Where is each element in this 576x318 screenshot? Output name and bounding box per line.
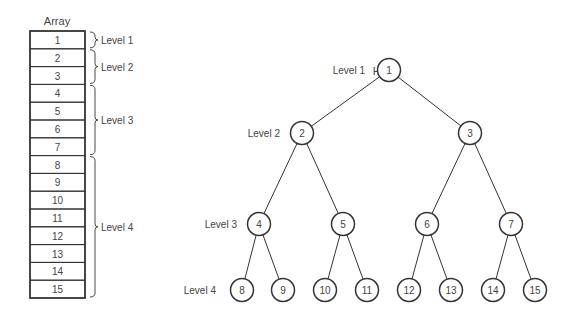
heap-node-value: 7 — [508, 219, 514, 230]
array-cell-value: 2 — [55, 53, 61, 64]
array-level-label: Level 4 — [101, 222, 134, 233]
array-cell-value: 3 — [55, 71, 61, 82]
array-cell-value: 11 — [52, 213, 63, 224]
heap-node-value: 12 — [403, 285, 415, 296]
brace-icon — [90, 157, 98, 297]
heap-node-value: 3 — [467, 128, 473, 139]
array-cell-value: 7 — [55, 142, 61, 153]
array-cell-value: 10 — [52, 195, 64, 206]
array-cell-value: 15 — [52, 284, 64, 295]
heap-level-labels: Level 1Level 2Level 3Level 4 — [184, 65, 366, 296]
brace-icon — [90, 50, 98, 84]
heap-edge — [432, 143, 465, 213]
heap-node-value: 6 — [424, 219, 430, 230]
brace-icon — [90, 32, 98, 48]
heap-level-label: Level 1 — [333, 65, 366, 76]
heap-edge — [515, 235, 531, 279]
heap-level-label: Level 2 — [248, 128, 281, 139]
array-cell-value: 9 — [55, 177, 61, 188]
heap-edge — [398, 77, 461, 126]
heap-edge — [347, 235, 363, 279]
heap-node-value: 10 — [319, 285, 331, 296]
heap-node-value: 11 — [362, 285, 373, 296]
array: 123456789101112131415 — [30, 31, 85, 298]
array-title: Array — [44, 15, 71, 27]
array-cell-value: 4 — [55, 88, 61, 99]
heap-node-value: 5 — [340, 219, 346, 230]
heap-edge — [412, 235, 424, 279]
array-cell-value: 6 — [55, 124, 61, 135]
heap-edge — [263, 235, 279, 279]
heap-edge — [307, 143, 339, 213]
heap-edge — [496, 235, 508, 279]
array-cell-value: 13 — [52, 249, 64, 260]
array-level-braces: Level 1Level 2Level 3Level 4 — [90, 32, 134, 297]
array-level-label: Level 3 — [101, 115, 134, 126]
heap-node-value: 4 — [256, 219, 262, 230]
array-cell-value: 8 — [55, 160, 61, 171]
array-level-label: Level 1 — [101, 35, 134, 46]
heap-edge — [328, 235, 340, 279]
heap-node-value: 9 — [280, 285, 286, 296]
heap-node-value: 1 — [386, 65, 392, 76]
heap-node-value: 14 — [487, 285, 499, 296]
array-heap-diagram: Array 123456789101112131415 Level 1Level… — [0, 0, 576, 318]
heap-edges — [245, 77, 531, 279]
heap-level-label: Level 3 — [205, 219, 238, 230]
heap-edge — [245, 235, 256, 279]
array-cell-value: 12 — [52, 231, 64, 242]
array-cell-value: 5 — [55, 106, 61, 117]
heap-node-value: 13 — [445, 285, 457, 296]
array-cell-value: 14 — [52, 266, 64, 277]
array-cell-value: 1 — [55, 35, 61, 46]
array-level-label: Level 2 — [101, 62, 134, 73]
heap-nodes: 123456789101112131415 — [231, 59, 547, 302]
heap-edge — [264, 143, 297, 213]
heap-edge — [431, 235, 447, 279]
brace-icon — [90, 85, 98, 154]
heap-node-value: 8 — [239, 285, 245, 296]
heap-node-value: 15 — [529, 285, 541, 296]
heap-node-value: 2 — [299, 128, 305, 139]
heap-edge — [475, 143, 507, 213]
heap-level-label: Level 4 — [184, 285, 217, 296]
heap-edge — [311, 77, 379, 127]
